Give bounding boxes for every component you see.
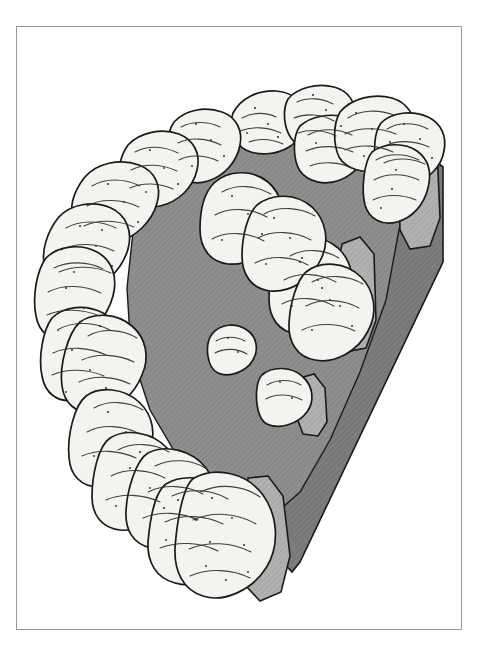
- cairn-drawing: [0, 0, 479, 656]
- cairn-illustration: [0, 0, 479, 656]
- illustration-plate: [0, 0, 479, 656]
